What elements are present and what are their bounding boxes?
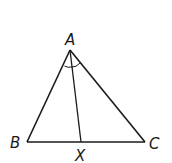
side-ac [70, 50, 145, 142]
side-ab [27, 50, 70, 142]
diagram-svg: A B C X [0, 0, 172, 163]
angle-arc-xac [72, 63, 80, 67]
angle-arc-bax [65, 66, 73, 67]
vertex-label-b: B [10, 134, 20, 152]
triangle-diagram: A B C X [0, 0, 172, 163]
vertex-label-c: C [149, 135, 160, 153]
point-label-x: X [74, 147, 86, 163]
vertex-label-a: A [64, 31, 75, 49]
